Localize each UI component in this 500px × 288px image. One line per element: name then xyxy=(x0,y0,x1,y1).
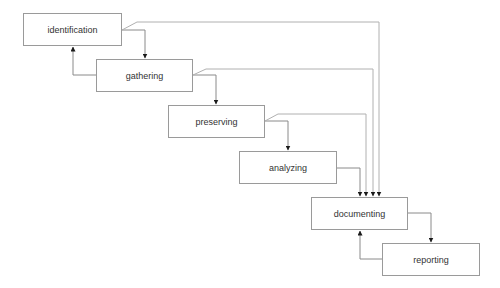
node-gathering: gathering xyxy=(96,59,193,92)
node-label: analyzing xyxy=(269,163,307,173)
node-label: preserving xyxy=(195,117,237,127)
node-label: reporting xyxy=(413,255,449,265)
node-preserving: preserving xyxy=(168,105,265,138)
node-identification: identification xyxy=(23,13,122,46)
edge-gathering-identification xyxy=(73,47,96,75)
edge-documenting-reporting xyxy=(408,213,431,242)
node-label: identification xyxy=(47,25,97,35)
node-analyzing: analyzing xyxy=(239,151,337,184)
edge-preserving-analyzing xyxy=(265,121,288,150)
node-reporting: reporting xyxy=(382,243,480,276)
node-label: gathering xyxy=(126,71,164,81)
node-documenting: documenting xyxy=(311,197,408,230)
edge-gathering-preserving xyxy=(193,75,216,104)
node-label: documenting xyxy=(334,209,386,219)
edge-identification-gathering xyxy=(122,30,145,58)
edge-analyzing-documenting xyxy=(337,168,360,196)
edge-reporting-documenting xyxy=(360,231,382,259)
